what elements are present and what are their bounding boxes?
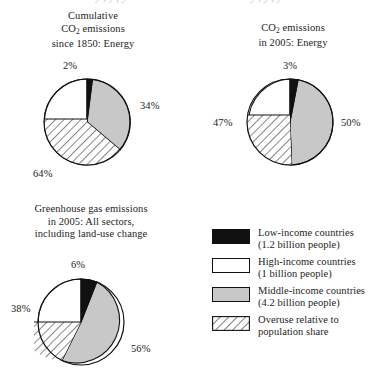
title-line-2: in 2005: All sectors, [8, 216, 174, 229]
label-co2-2005-right: 50% [341, 117, 361, 128]
pie-ghg-2005 [34, 275, 128, 368]
title-line-1: Cumulative [18, 10, 168, 23]
middle-income-swatch [212, 287, 250, 302]
label-co2-2005-left: 47% [213, 117, 233, 128]
legend-label-high-income-line2: (1 billion people) [258, 268, 332, 280]
title-line-1: Greenhouse gas emissions [8, 203, 174, 216]
label-cumulative-bottomleft: 64% [33, 168, 53, 179]
cropped-text-above: y ; y , y y ; y , y [0, 0, 375, 6]
chart-co2-2005-energy: CO2 emissions in 2005: Energy [218, 22, 368, 50]
figure-canvas: y ; y , y y ; y , y Cumulative CO2 emiss… [0, 0, 375, 368]
label-ghg-right: 56% [131, 343, 151, 354]
title-line-2: in 2005: Energy [218, 37, 368, 50]
overuse-swatch [212, 316, 250, 331]
label-cumulative-top: 2% [63, 60, 77, 71]
slice-middle-income [290, 80, 333, 165]
cropped-text-glyphs: y ; y , y [95, 0, 127, 3]
title-line-3: including land-use change [8, 228, 174, 241]
title-line-2: CO2 emissions [18, 23, 168, 38]
legend-label-low-income-line2: (1.2 billion people) [258, 239, 340, 251]
chart-title-co2-2005: CO2 emissions in 2005: Energy [218, 22, 368, 50]
legend-label-low-income-line1: Low-income countries [258, 227, 354, 239]
chart-cumulative-co2-energy: Cumulative CO2 emissions since 1850: Ene… [18, 10, 168, 50]
subscript-2: 2 [76, 26, 80, 35]
cropped-text-glyphs-2: y ; y , y [250, 0, 282, 3]
legend-label-middle-income-line2: (4.2 billion people) [258, 297, 340, 309]
label-co2-2005-top: 3% [283, 60, 297, 71]
legend-label-high-income-line1: High-income countries [258, 256, 356, 268]
chart-title-ghg-2005: Greenhouse gas emissions in 2005: All se… [8, 203, 174, 241]
title-line-1: CO2 emissions [218, 22, 368, 37]
pie-cumulative-co2-energy [40, 75, 134, 169]
label-ghg-top: 6% [71, 259, 85, 270]
subscript-2: 2 [276, 26, 280, 35]
title-line-3: since 1850: Energy [18, 38, 168, 51]
legend-label-middle-income-line1: Middle-income countries [258, 285, 365, 297]
high-income-swatch [212, 258, 250, 273]
label-cumulative-right: 34% [140, 100, 160, 111]
chart-title-cumulative: Cumulative CO2 emissions since 1850: Ene… [18, 10, 168, 50]
chart-ghg-2005: Greenhouse gas emissions in 2005: All se… [8, 203, 174, 241]
legend-label-overuse-line2: population share [258, 326, 329, 338]
pie-co2-2005-energy [243, 75, 337, 169]
legend-label-overuse-line1: Overuse relative to [258, 314, 339, 326]
label-ghg-left: 38% [11, 303, 31, 314]
low-income-swatch [212, 229, 250, 244]
